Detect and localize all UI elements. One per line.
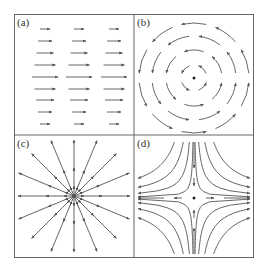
arrow-icon bbox=[184, 50, 203, 52]
arrow-icon bbox=[212, 83, 222, 100]
arrow-icon bbox=[79, 201, 81, 203]
arrow-icon bbox=[77, 203, 78, 206]
arrow-icon bbox=[67, 201, 69, 203]
arrow-icon bbox=[152, 52, 161, 73]
panel-d-label: (d) bbox=[137, 137, 150, 150]
arrow-icon bbox=[139, 50, 147, 73]
arrow-icon bbox=[81, 199, 84, 200]
arrow-icon bbox=[214, 142, 250, 178]
arrow-icon bbox=[84, 170, 85, 173]
panel-a-shear-flow bbox=[32, 29, 127, 124]
panel-d-saddle bbox=[138, 142, 250, 254]
panel-b-vortex bbox=[139, 23, 249, 133]
arrow-icon bbox=[241, 83, 249, 107]
arrow-icon bbox=[227, 52, 236, 73]
arrow-icon bbox=[48, 185, 51, 186]
arrow-icon bbox=[63, 170, 64, 173]
arrow-icon bbox=[182, 23, 207, 24]
panel-b-label: (b) bbox=[137, 16, 150, 29]
arrow-icon bbox=[168, 36, 189, 45]
panel-a-label: (a) bbox=[17, 16, 30, 29]
arrow-icon bbox=[199, 111, 220, 120]
arrow-icon bbox=[216, 114, 236, 129]
arrow-icon bbox=[65, 199, 68, 200]
center-point bbox=[193, 77, 196, 80]
arrow-icon bbox=[54, 176, 56, 178]
arrow-icon bbox=[216, 27, 236, 42]
figure-frame bbox=[15, 15, 254, 258]
arrow-icon bbox=[168, 111, 189, 120]
arrow-icon bbox=[67, 189, 69, 191]
arrow-icon bbox=[92, 214, 94, 216]
arrow-icon bbox=[138, 218, 174, 254]
arrow-icon bbox=[97, 185, 100, 186]
arrow-icon bbox=[199, 66, 207, 74]
arrow-icon bbox=[63, 219, 64, 222]
arrow-icon bbox=[54, 214, 56, 216]
arrow-icon bbox=[97, 206, 100, 207]
arrow-icon bbox=[214, 218, 250, 254]
arrow-icon bbox=[166, 57, 176, 74]
arrow-icon bbox=[70, 203, 71, 206]
arrow-icon bbox=[92, 176, 94, 178]
arrow-icon bbox=[182, 66, 190, 74]
arrow-icon bbox=[153, 27, 173, 42]
panel-c-label: (c) bbox=[17, 137, 30, 150]
arrow-icon bbox=[212, 57, 222, 74]
arrow-icon bbox=[227, 83, 236, 104]
arrow-icon bbox=[166, 83, 176, 100]
arrow-icon bbox=[153, 114, 173, 129]
vector-field-figure: (a) (b) (c) (d) bbox=[0, 0, 267, 271]
panel-c-source bbox=[18, 140, 130, 252]
arrow-icon bbox=[241, 50, 249, 73]
center-point bbox=[193, 197, 196, 200]
arrow-icon bbox=[184, 104, 203, 106]
arrow-icon bbox=[139, 83, 147, 107]
arrow-icon bbox=[84, 219, 85, 222]
arrow-icon bbox=[77, 187, 78, 190]
arrow-icon bbox=[70, 187, 71, 190]
arrow-icon bbox=[81, 192, 84, 193]
arrow-icon bbox=[79, 189, 81, 191]
arrow-icon bbox=[182, 83, 190, 91]
arrow-icon bbox=[199, 83, 207, 91]
arrow-icon bbox=[182, 132, 207, 133]
arrow-icon bbox=[48, 206, 51, 207]
arrow-icon bbox=[199, 36, 220, 45]
arrow-icon bbox=[152, 83, 161, 104]
arrow-icon bbox=[65, 192, 68, 193]
